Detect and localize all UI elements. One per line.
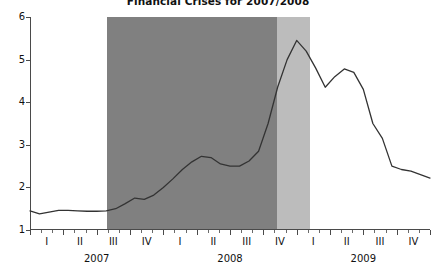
y-tick-mark xyxy=(26,145,30,146)
x-tick-major xyxy=(163,230,164,235)
x-tick-minor xyxy=(241,230,242,233)
x-quarter-label: IV xyxy=(142,237,152,247)
x-tick-major xyxy=(97,230,98,235)
x-tick-minor xyxy=(208,230,209,233)
x-tick-major xyxy=(330,230,331,235)
chart-title: Financial Crises for 2007/2008 xyxy=(0,0,436,8)
y-tick-label: 3 xyxy=(19,140,25,150)
x-year-label: 2008 xyxy=(217,254,242,264)
x-quarter-label: IV xyxy=(408,237,418,247)
x-year-label: 2009 xyxy=(351,254,376,264)
x-tick-minor xyxy=(286,230,287,233)
x-tick-minor xyxy=(186,230,187,233)
x-tick-minor xyxy=(86,230,87,233)
x-tick-minor xyxy=(386,230,387,233)
x-quarter-label: II xyxy=(210,237,216,247)
x-quarter-label: III xyxy=(242,237,251,247)
x-tick-minor xyxy=(41,230,42,233)
x-tick-minor xyxy=(108,230,109,233)
x-tick-major xyxy=(30,230,31,235)
y-tick-mark xyxy=(26,17,30,18)
x-tick-major xyxy=(230,230,231,235)
x-quarter-label: III xyxy=(109,237,118,247)
x-quarter-label: IV xyxy=(275,237,285,247)
x-tick-major xyxy=(130,230,131,235)
x-tick-minor xyxy=(274,230,275,233)
x-quarter-label: III xyxy=(376,237,385,247)
x-tick-minor xyxy=(152,230,153,233)
x-tick-minor xyxy=(52,230,53,233)
x-tick-minor xyxy=(74,230,75,233)
x-tick-minor xyxy=(341,230,342,233)
x-tick-major xyxy=(430,230,431,235)
x-tick-major xyxy=(263,230,264,235)
x-quarter-label: II xyxy=(77,237,83,247)
x-tick-minor xyxy=(141,230,142,233)
y-tick-mark xyxy=(26,60,30,61)
x-tick-minor xyxy=(319,230,320,233)
y-tick-label: 4 xyxy=(19,97,25,107)
x-tick-minor xyxy=(252,230,253,233)
x-tick-minor xyxy=(408,230,409,233)
x-tick-major xyxy=(63,230,64,235)
x-tick-minor xyxy=(119,230,120,233)
x-tick-major xyxy=(363,230,364,235)
x-tick-major xyxy=(397,230,398,235)
x-tick-minor xyxy=(374,230,375,233)
x-tick-minor xyxy=(174,230,175,233)
x-tick-major xyxy=(197,230,198,235)
chart-figure: Financial Crises for 2007/2008 123456 II… xyxy=(0,0,436,270)
x-quarter-label: I xyxy=(179,237,182,247)
x-tick-minor xyxy=(352,230,353,233)
x-tick-minor xyxy=(419,230,420,233)
x-tick-minor xyxy=(219,230,220,233)
y-tick-label: 5 xyxy=(19,55,25,65)
series-line-spread xyxy=(30,17,430,230)
y-tick-mark xyxy=(26,102,30,103)
plot-area: 123456 IIIIIIIVIIIIIIIVIIIIIIIV200720082… xyxy=(30,17,430,230)
x-quarter-label: I xyxy=(45,237,48,247)
y-tick-mark xyxy=(26,187,30,188)
x-quarter-label: I xyxy=(312,237,315,247)
x-tick-minor xyxy=(308,230,309,233)
y-tick-label: 2 xyxy=(19,182,25,192)
y-tick-label: 6 xyxy=(19,12,25,22)
x-year-label: 2007 xyxy=(84,254,109,264)
x-tick-major xyxy=(297,230,298,235)
x-quarter-label: II xyxy=(344,237,350,247)
y-tick-label: 1 xyxy=(19,225,25,235)
